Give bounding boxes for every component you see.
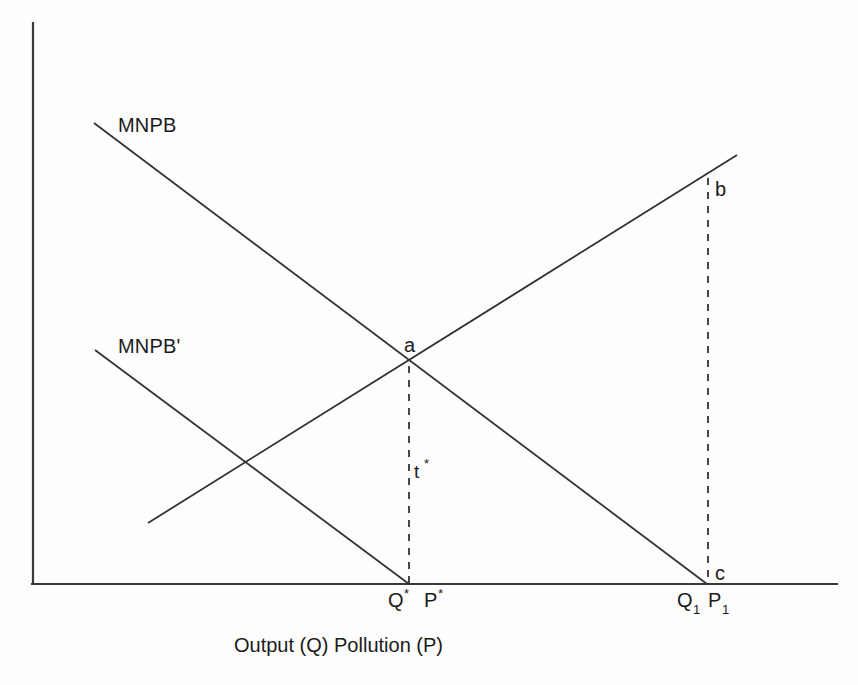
curves-group (94, 123, 737, 584)
curve-mnpb-prime (95, 350, 409, 584)
curve-mnpb (94, 123, 707, 584)
axis-tick-q-one: Q 1 (677, 589, 700, 617)
economics-diagram: MNPB MNPB' a b c t * Q * P * Q 1 P 1 Out (0, 0, 858, 685)
axis-tick-p-star-superscript: * (438, 586, 443, 601)
axis-tick-q-star-base: Q (388, 589, 404, 611)
point-label-c: c (715, 562, 725, 584)
curve-mec (148, 155, 737, 523)
axis-tick-q-one-subscript: 1 (693, 602, 700, 617)
dashed-lines-group (409, 178, 708, 584)
point-label-b: b (715, 178, 726, 200)
point-label-a: a (404, 334, 416, 356)
tax-label-superscript: * (424, 456, 429, 471)
axis-tick-p-star: P * (424, 586, 443, 611)
axes-group (32, 23, 837, 584)
x-axis-title: Output (Q) Pollution (P) (234, 634, 443, 656)
axis-tick-q-one-base: Q (677, 589, 693, 611)
axis-tick-p-one-subscript: 1 (722, 602, 729, 617)
axis-tick-q-star-superscript: * (404, 586, 409, 601)
curve-label-mnpb: MNPB (118, 114, 177, 136)
tax-label-base: t (414, 461, 420, 482)
axis-tick-q-star: Q * (388, 586, 409, 611)
annotation-tax: t * (414, 456, 429, 482)
figure-container: MNPB MNPB' a b c t * Q * P * Q 1 P 1 Out (0, 0, 858, 685)
axis-tick-p-one: P 1 (708, 589, 729, 617)
axis-tick-p-one-base: P (708, 589, 721, 611)
axis-tick-p-star-base: P (424, 589, 437, 611)
curve-label-mnpb-prime: MNPB' (118, 335, 181, 357)
